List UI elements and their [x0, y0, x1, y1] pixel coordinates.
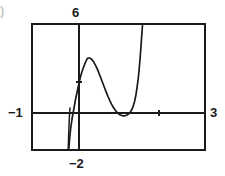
axis-label-y-min: −2: [69, 157, 84, 170]
item-marker: ): [0, 4, 4, 17]
axis-label-y-max: 6: [72, 6, 79, 19]
axis-label-x-min: −1: [8, 106, 23, 119]
graph-figure: ) 6 −1 3 −2: [0, 0, 225, 176]
axis-label-x-max: 3: [210, 106, 217, 119]
calculator-screen-plot: [0, 0, 225, 176]
